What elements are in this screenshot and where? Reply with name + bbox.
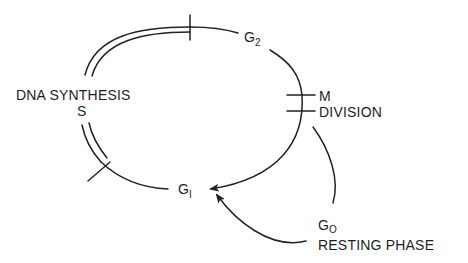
g2-arc-left (190, 27, 238, 33)
division-label: DIVISION (319, 104, 382, 120)
m-to-g1-arrow (211, 95, 302, 189)
g2-label: G2 (244, 29, 261, 48)
g0-label: GO (318, 217, 337, 235)
g0-to-g1-arrow (217, 195, 306, 243)
g1-s-boundary-tick (88, 162, 110, 181)
diagram-canvas: DNA SYNTHESIS S G2 M DIVISION GI GO REST… (0, 0, 468, 263)
cell-cycle-diagram: DNA SYNTHESIS S G2 M DIVISION GI GO REST… (0, 0, 468, 263)
division-to-g0-curve (313, 127, 335, 203)
g1-label: GI (178, 181, 192, 200)
s-phase-label: S (77, 103, 87, 119)
m-phase-label: M (319, 88, 331, 104)
resting-phase-label: RESTING PHASE (318, 237, 434, 253)
g2-m-arc (270, 50, 302, 95)
dna-synthesis-label: DNA SYNTHESIS (16, 87, 131, 103)
g1-arc (101, 162, 168, 189)
